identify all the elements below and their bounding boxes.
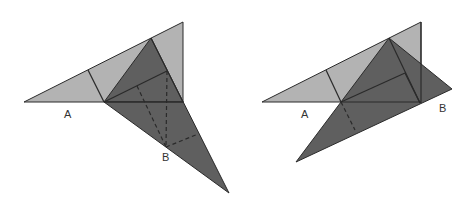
right-label-b: B	[439, 102, 446, 114]
left-label-b: B	[162, 151, 169, 163]
right-label-a: A	[301, 108, 309, 120]
right-figure: A B	[262, 22, 452, 162]
diagram-canvas: A B A B	[0, 0, 475, 214]
left-figure: A B	[24, 22, 229, 193]
left-label-a: A	[64, 108, 72, 120]
